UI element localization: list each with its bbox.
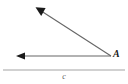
diagonal-ray-arrowhead-icon	[36, 7, 46, 16]
horizontal-ray-arrowhead-icon	[16, 53, 25, 60]
diagonal-ray-line	[42, 12, 111, 57]
vertex-label-a: A	[113, 49, 120, 59]
caption-label-c: c	[0, 73, 128, 81]
angle-diagram: A c	[0, 0, 128, 84]
